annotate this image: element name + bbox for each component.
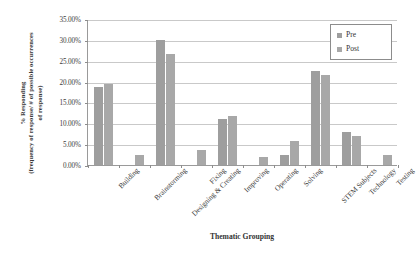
y-axis-title-line-1: % Responding [19,15,27,191]
y-axis-tick-label: 35.00% [59,16,81,24]
y-axis-tick [85,62,88,63]
y-axis-tick [85,83,88,84]
y-axis-tick-labels: 0.00%5.00%10.00%15.00%20.00%25.00%30.00%… [40,14,84,166]
x-axis-label: Testing [394,166,415,187]
bar-post[interactable] [166,54,176,165]
x-axis-label: Improving [242,166,270,194]
x-axis-label: Building [116,166,140,190]
bar-pre[interactable] [311,71,321,165]
legend: Pre Post [330,24,392,60]
y-axis-tick [85,145,88,146]
bar-post[interactable] [197,150,207,165]
bar-post[interactable] [228,116,238,165]
legend-item-pre[interactable]: Pre [337,28,391,42]
bar-post[interactable] [259,157,269,165]
legend-swatch-post-icon [337,47,342,52]
bar-post[interactable] [352,136,362,165]
bar-pre[interactable] [342,132,352,165]
bar-pre[interactable] [94,87,104,165]
y-axis-tick-label: 10.00% [59,120,81,128]
gridline [88,83,397,84]
legend-label-pre: Pre [346,31,356,39]
y-axis-tick-label: 15.00% [59,99,81,107]
gridline [88,124,397,125]
y-axis-tick-label: 5.00% [63,141,81,149]
bar-post[interactable] [135,155,145,165]
bar-chart: % Responding (frequency of response/ # o… [0,0,419,256]
gridline [88,103,397,104]
x-axis-label: Solving [301,166,323,188]
y-axis-tick-label: 25.00% [59,58,81,66]
legend-swatch-pre-icon [337,33,342,38]
bar-post[interactable] [321,75,331,165]
legend-label-post: Post [346,45,359,53]
y-axis-tick-label: 30.00% [59,37,81,45]
bar-pre[interactable] [280,155,290,165]
x-axis-tick [398,165,399,168]
y-axis-tick-label: 0.00% [63,162,81,170]
gridline [88,62,397,63]
y-axis-tick-label: 20.00% [59,79,81,87]
y-axis-tick [85,41,88,42]
y-axis-tick [85,124,88,125]
bar-post[interactable] [104,84,114,165]
bar-pre[interactable] [156,40,166,165]
legend-item-post[interactable]: Post [337,42,391,56]
y-axis-title-line-2: (frequency of response/ # of possible oc… [27,15,35,191]
x-axis-title: Thematic Grouping [87,232,397,241]
y-axis-tick [85,103,88,104]
x-axis-label: Brainstorming [152,166,188,202]
x-axis-category-labels: BuildingBrainstormingDesigning & Creatin… [87,166,397,228]
bar-pre[interactable] [218,119,228,165]
y-axis-tick [85,20,88,21]
bar-post[interactable] [383,155,393,165]
x-axis-label: Operating [272,166,299,193]
bar-post[interactable] [290,141,300,165]
gridline [88,20,397,21]
